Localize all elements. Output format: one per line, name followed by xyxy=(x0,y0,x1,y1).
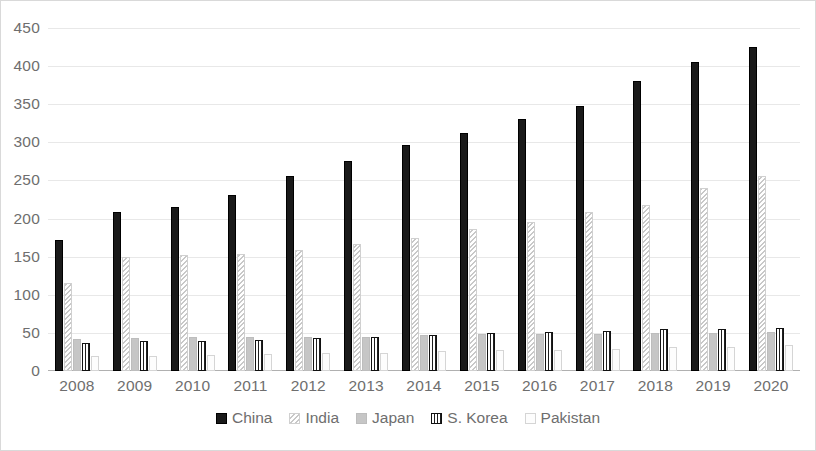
legend-swatch-china-icon xyxy=(216,413,227,424)
bar-s-korea-2014[interactable] xyxy=(429,335,437,371)
bar-china-2018[interactable] xyxy=(633,81,641,371)
bar-india-2018[interactable] xyxy=(642,205,650,371)
bar-china-2008[interactable] xyxy=(55,240,63,371)
y-axis-tick-label: 50 xyxy=(22,324,40,342)
bar-pakistan-2020[interactable] xyxy=(785,345,793,371)
bar-pakistan-2009[interactable] xyxy=(149,356,157,371)
y-axis-tick-label: 0 xyxy=(31,362,40,380)
bar-pakistan-2019[interactable] xyxy=(727,347,735,371)
legend-item-india[interactable]: India xyxy=(289,409,339,427)
bar-s-korea-2017[interactable] xyxy=(603,331,611,371)
bar-india-2013[interactable] xyxy=(353,244,361,371)
bar-india-2012[interactable] xyxy=(295,250,303,371)
y-axis-tick-label: 400 xyxy=(14,57,40,75)
bar-s-korea-2008[interactable] xyxy=(82,343,90,371)
bar-s-korea-2019[interactable] xyxy=(718,329,726,371)
y-axis-tick-label: 450 xyxy=(14,19,40,37)
bar-pakistan-2011[interactable] xyxy=(264,354,272,371)
legend-swatch-india-icon xyxy=(289,413,300,424)
bar-japan-2016[interactable] xyxy=(536,334,544,371)
y-axis-tick-label: 100 xyxy=(14,286,40,304)
y-axis-tick-label: 250 xyxy=(14,171,40,189)
bar-pakistan-2008[interactable] xyxy=(91,356,99,371)
bar-japan-2018[interactable] xyxy=(651,333,659,371)
bar-cluster-2018 xyxy=(626,28,684,371)
bar-japan-2009[interactable] xyxy=(131,338,139,371)
chart-legend: ChinaIndiaJapanS. KoreaPakistan xyxy=(1,409,815,427)
bar-india-2015[interactable] xyxy=(469,229,477,371)
bar-china-2012[interactable] xyxy=(286,176,294,371)
bar-s-korea-2013[interactable] xyxy=(371,337,379,371)
bar-japan-2015[interactable] xyxy=(478,334,486,371)
x-axis-tick-label: 2011 xyxy=(222,373,280,399)
bar-india-2014[interactable] xyxy=(411,238,419,371)
legend-item-china[interactable]: China xyxy=(216,409,273,427)
bar-india-2020[interactable] xyxy=(758,176,766,371)
bar-japan-2010[interactable] xyxy=(189,337,197,371)
bar-japan-2020[interactable] xyxy=(767,332,775,371)
x-axis: 2008200920102011201220132014201520162017… xyxy=(48,373,800,399)
legend-swatch-pakistan-icon xyxy=(525,413,536,424)
bar-cluster-2009 xyxy=(106,28,164,371)
bar-s-korea-2020[interactable] xyxy=(776,328,784,371)
bar-china-2015[interactable] xyxy=(460,133,468,371)
bar-cluster-2016 xyxy=(511,28,569,371)
bar-india-2008[interactable] xyxy=(64,283,72,371)
bar-s-korea-2010[interactable] xyxy=(198,341,206,371)
x-axis-tick-label: 2015 xyxy=(453,373,511,399)
bar-s-korea-2011[interactable] xyxy=(255,340,263,371)
bar-pakistan-2013[interactable] xyxy=(380,353,388,371)
bar-china-2011[interactable] xyxy=(228,195,236,371)
bar-cluster-2012 xyxy=(279,28,337,371)
bar-japan-2019[interactable] xyxy=(709,333,717,371)
bar-china-2016[interactable] xyxy=(518,119,526,371)
x-axis-tick-label: 2013 xyxy=(337,373,395,399)
legend-label: S. Korea xyxy=(447,409,507,427)
bar-pakistan-2017[interactable] xyxy=(612,349,620,371)
bar-india-2009[interactable] xyxy=(122,257,130,371)
bar-pakistan-2018[interactable] xyxy=(669,347,677,371)
bar-japan-2013[interactable] xyxy=(362,337,370,371)
legend-item-japan[interactable]: Japan xyxy=(356,409,414,427)
bar-japan-2014[interactable] xyxy=(420,335,428,371)
y-axis-tick-label: 350 xyxy=(14,95,40,113)
bar-india-2011[interactable] xyxy=(237,254,245,371)
bar-china-2017[interactable] xyxy=(576,106,584,371)
bar-japan-2008[interactable] xyxy=(73,339,81,371)
bar-india-2010[interactable] xyxy=(180,255,188,371)
bar-japan-2012[interactable] xyxy=(304,337,312,371)
bar-s-korea-2012[interactable] xyxy=(313,338,321,371)
x-axis-tick-label: 2020 xyxy=(742,373,800,399)
bar-pakistan-2015[interactable] xyxy=(496,350,504,371)
bar-cluster-2015 xyxy=(453,28,511,371)
bar-cluster-2010 xyxy=(164,28,222,371)
bar-pakistan-2014[interactable] xyxy=(438,351,446,371)
bar-china-2009[interactable] xyxy=(113,212,121,371)
bar-japan-2011[interactable] xyxy=(246,337,254,371)
bar-cluster-2019 xyxy=(684,28,742,371)
bar-japan-2017[interactable] xyxy=(594,334,602,371)
bar-india-2017[interactable] xyxy=(585,212,593,371)
x-axis-tick-label: 2009 xyxy=(106,373,164,399)
bar-s-korea-2016[interactable] xyxy=(545,332,553,371)
bar-china-2013[interactable] xyxy=(344,161,352,371)
bar-china-2010[interactable] xyxy=(171,207,179,371)
legend-item-pakistan[interactable]: Pakistan xyxy=(525,409,600,427)
bar-s-korea-2018[interactable] xyxy=(660,329,668,371)
bar-china-2020[interactable] xyxy=(749,47,757,371)
bar-india-2019[interactable] xyxy=(700,188,708,371)
bar-s-korea-2015[interactable] xyxy=(487,333,495,371)
bar-pakistan-2012[interactable] xyxy=(322,353,330,371)
bar-pakistan-2010[interactable] xyxy=(207,355,215,371)
legend-label: India xyxy=(305,409,339,427)
bar-india-2016[interactable] xyxy=(527,222,535,371)
legend-label: Pakistan xyxy=(541,409,600,427)
x-axis-tick-label: 2008 xyxy=(48,373,106,399)
x-axis-tick-label: 2010 xyxy=(164,373,222,399)
legend-item-s-korea[interactable]: S. Korea xyxy=(431,409,507,427)
bar-cluster-2020 xyxy=(742,28,800,371)
bar-s-korea-2009[interactable] xyxy=(140,341,148,371)
bar-pakistan-2016[interactable] xyxy=(554,350,562,371)
bar-china-2014[interactable] xyxy=(402,145,410,371)
bar-china-2019[interactable] xyxy=(691,62,699,371)
